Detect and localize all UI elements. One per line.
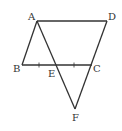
geometry-diagram: A D B E C F: [0, 0, 122, 131]
label-A: A: [27, 11, 36, 22]
label-D: D: [108, 11, 116, 22]
label-F: F: [72, 112, 79, 123]
label-C: C: [93, 63, 101, 74]
label-B: B: [13, 63, 20, 74]
label-E: E: [48, 68, 55, 79]
segment-AB: [22, 21, 37, 65]
